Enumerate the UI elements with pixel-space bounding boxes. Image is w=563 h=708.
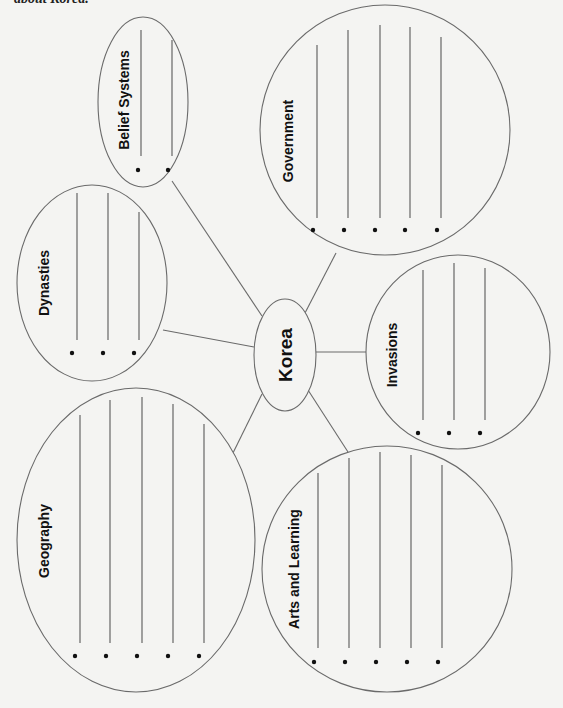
bullet-icon (197, 654, 201, 658)
bullet-icon (132, 351, 136, 355)
bullet-icon (70, 351, 74, 355)
bubble-government: Government (260, 5, 510, 255)
bullet-icon (136, 168, 140, 172)
bullet-icon (416, 431, 420, 435)
bullet-icon (312, 660, 316, 664)
bubble-belief-systems: Belief Systems (98, 17, 188, 187)
bullet-icon (373, 228, 377, 232)
bullet-icon (374, 660, 378, 664)
bullet-icon (447, 431, 451, 435)
bullet-icon (435, 228, 439, 232)
bullet-icon (166, 654, 170, 658)
geography-ellipse (17, 388, 255, 692)
bullet-icon (104, 654, 108, 658)
bubble-dynasties: Dynasties (17, 185, 167, 381)
belief-systems-label: Belief Systems (116, 50, 132, 150)
geography-label: Geography (36, 504, 52, 578)
bullet-icon (166, 168, 170, 172)
concept-web-diagram: Belief SystemsGovernmentDynastiesInvasio… (0, 0, 563, 708)
connector-government (305, 253, 336, 313)
bubble-invasions: Invasions (366, 255, 550, 449)
invasions-label: Invasions (384, 323, 400, 388)
dynasties-label: Dynasties (36, 250, 52, 316)
government-label: Government (280, 99, 296, 182)
bubble-geography: Geography (17, 388, 255, 692)
bullet-icon (311, 228, 315, 232)
bullet-icon (478, 431, 482, 435)
government-ellipse (260, 5, 510, 255)
connector-belief-systems (172, 181, 262, 316)
arts-and-learning-label: Arts and Learning (286, 509, 302, 629)
bullet-icon (343, 660, 347, 664)
center-topic: Korea (254, 299, 316, 411)
connector-geography (232, 394, 262, 455)
belief-systems-ellipse (98, 17, 188, 187)
bullet-icon (135, 654, 139, 658)
bullet-icon (101, 351, 105, 355)
bullet-icon (73, 654, 77, 658)
center-topic-label: Korea (275, 328, 296, 382)
connector-arts-and-learning (308, 390, 348, 452)
connector-dynasties (163, 330, 254, 347)
bullet-icon (403, 228, 407, 232)
bullet-icon (436, 660, 440, 664)
bullet-icon (342, 228, 346, 232)
bullet-icon (405, 660, 409, 664)
bubble-arts-and-learning: Arts and Learning (262, 446, 512, 692)
